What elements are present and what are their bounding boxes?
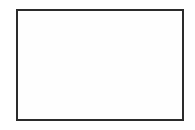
graph-canvas[interactable] <box>0 0 195 130</box>
screenshot-root <box>0 0 195 130</box>
display-bezel-frame <box>17 10 183 120</box>
graphing-calculator-display[interactable] <box>0 0 195 130</box>
